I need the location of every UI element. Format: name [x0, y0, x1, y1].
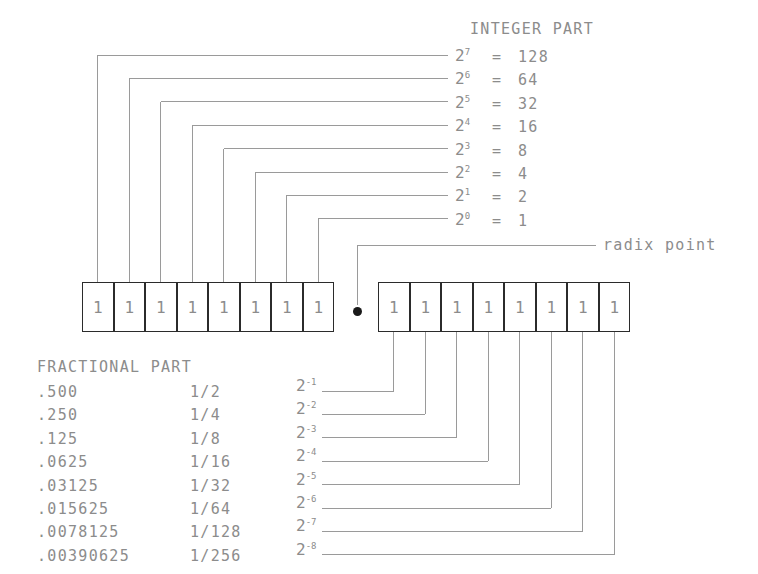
integer-equals-2: =: [492, 97, 502, 112]
fraction-bit-bit-7[interactable]: 1: [599, 282, 631, 332]
integer-bit-bit-5[interactable]: 1: [240, 282, 272, 332]
power-exponent: 7: [465, 47, 470, 57]
power-base: 2: [455, 210, 465, 229]
fraction-bit-bit-2[interactable]: 1: [441, 282, 473, 332]
integer-bit-bit-4[interactable]: 1: [208, 282, 240, 332]
fraction-bit-bit-6[interactable]: 1: [567, 282, 599, 332]
integer-equals-7: =: [492, 214, 502, 229]
integer-value-6: 2: [518, 190, 528, 205]
power-base: 2: [455, 70, 465, 89]
fraction-decimal-0: .500: [37, 385, 78, 400]
integer-equals-6: =: [492, 190, 502, 205]
power-exponent: -4: [306, 447, 317, 457]
integer-equals-0: =: [492, 50, 502, 65]
integer-equals-4: =: [492, 144, 502, 159]
integer-power-label-0: 27: [455, 48, 470, 64]
integer-power-label-2: 25: [455, 95, 470, 111]
power-exponent: -8: [306, 541, 317, 551]
fractional-part-heading: FRACTIONAL PART: [37, 360, 192, 375]
power-exponent: 1: [465, 187, 470, 197]
power-exponent: -1: [306, 377, 317, 387]
integer-equals-5: =: [492, 167, 502, 182]
radix-point-dot: [353, 307, 362, 316]
power-exponent: 3: [465, 141, 470, 151]
fraction-value-4: 1/32: [190, 479, 231, 494]
fraction-power-label-6: 2-7: [296, 518, 316, 534]
power-base: 2: [296, 517, 306, 536]
power-base: 2: [455, 46, 465, 65]
fraction-decimal-4: .03125: [37, 479, 99, 494]
power-base: 2: [296, 376, 306, 395]
fraction-value-1: 1/4: [190, 408, 221, 423]
integer-equals-3: =: [492, 120, 502, 135]
power-base: 2: [455, 93, 465, 112]
fraction-bit-bit-4[interactable]: 1: [504, 282, 536, 332]
fraction-decimal-7: .00390625: [37, 549, 130, 564]
fraction-decimal-5: .015625: [37, 502, 109, 517]
integer-part-heading: INTEGER PART: [470, 22, 594, 37]
radix-point-label: radix point: [603, 238, 717, 253]
fraction-bit-bit-1[interactable]: 1: [410, 282, 442, 332]
power-exponent: -3: [306, 424, 317, 434]
fraction-power-label-5: 2-6: [296, 495, 316, 511]
power-exponent: -6: [306, 494, 317, 504]
power-exponent: -2: [306, 400, 317, 410]
fraction-value-5: 1/64: [190, 502, 231, 517]
fraction-power-label-0: 2-1: [296, 378, 316, 394]
fraction-power-label-1: 2-2: [296, 401, 316, 417]
fraction-value-6: 1/128: [190, 525, 242, 540]
fraction-decimal-3: .0625: [37, 455, 89, 470]
fraction-power-label-3: 2-4: [296, 448, 316, 464]
integer-equals-1: =: [492, 73, 502, 88]
integer-bit-bit-6[interactable]: 1: [271, 282, 303, 332]
power-base: 2: [455, 117, 465, 136]
integer-bit-bit-0[interactable]: 1: [82, 282, 114, 332]
integer-power-label-7: 20: [455, 212, 470, 228]
integer-value-7: 1: [518, 214, 528, 229]
fraction-bit-bit-3[interactable]: 1: [473, 282, 505, 332]
integer-value-5: 4: [518, 167, 528, 182]
fraction-decimal-6: .0078125: [37, 525, 120, 540]
power-base: 2: [296, 493, 306, 512]
power-base: 2: [296, 400, 306, 419]
integer-power-label-3: 24: [455, 118, 470, 134]
integer-power-label-4: 23: [455, 142, 470, 158]
integer-value-1: 64: [518, 73, 539, 88]
integer-bit-bit-7[interactable]: 1: [303, 282, 335, 332]
integer-power-label-5: 22: [455, 165, 470, 181]
power-base: 2: [455, 140, 465, 159]
fraction-bit-bit-0[interactable]: 1: [378, 282, 410, 332]
power-base: 2: [296, 540, 306, 559]
fraction-value-0: 1/2: [190, 385, 221, 400]
integer-bit-bit-3[interactable]: 1: [177, 282, 209, 332]
power-base: 2: [296, 470, 306, 489]
power-exponent: 2: [465, 164, 470, 174]
power-base: 2: [455, 187, 465, 206]
power-base: 2: [455, 163, 465, 182]
fraction-value-2: 1/8: [190, 432, 221, 447]
power-base: 2: [296, 423, 306, 442]
integer-power-label-1: 26: [455, 71, 470, 87]
power-exponent: 4: [465, 117, 470, 127]
fraction-power-label-2: 2-3: [296, 425, 316, 441]
power-exponent: 0: [465, 211, 470, 221]
power-exponent: -5: [306, 471, 317, 481]
integer-power-label-6: 21: [455, 188, 470, 204]
fraction-power-label-7: 2-8: [296, 542, 316, 558]
fraction-decimal-2: .125: [37, 432, 78, 447]
power-exponent: 5: [465, 94, 470, 104]
integer-value-3: 16: [518, 120, 539, 135]
integer-value-0: 128: [518, 50, 549, 65]
fraction-value-7: 1/256: [190, 549, 242, 564]
integer-bit-bit-1[interactable]: 1: [114, 282, 146, 332]
fraction-value-3: 1/16: [190, 455, 231, 470]
fraction-decimal-1: .250: [37, 408, 78, 423]
power-exponent: 6: [465, 70, 470, 80]
power-base: 2: [296, 447, 306, 466]
binary-radix-point-diagram: INTEGER PART radix point FRACTIONAL PART…: [0, 0, 758, 574]
integer-bit-bit-2[interactable]: 1: [145, 282, 177, 332]
fraction-bit-bit-5[interactable]: 1: [536, 282, 568, 332]
power-exponent: -7: [306, 517, 317, 527]
fraction-power-label-4: 2-5: [296, 472, 316, 488]
integer-value-2: 32: [518, 97, 539, 112]
